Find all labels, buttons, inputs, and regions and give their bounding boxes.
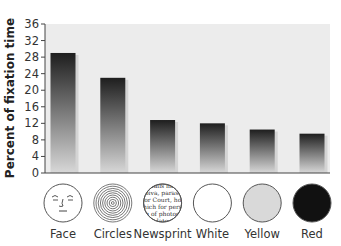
x-category-label: Circles (94, 227, 132, 241)
y-tick-label: 32 (24, 34, 39, 48)
y-tick-label: 16 (24, 100, 39, 114)
y-tick-label: 28 (24, 50, 39, 64)
y-tick-label: 8 (32, 133, 39, 147)
x-category-label: Red (301, 227, 323, 241)
newsprint-text-line: lato (157, 217, 169, 224)
bar-red (300, 134, 325, 173)
face-drawing-icon (44, 184, 82, 222)
y-tick-label: 0 (32, 166, 39, 180)
bar-newsprint (150, 120, 175, 173)
x-category-label: Face (50, 227, 76, 241)
bar-yellow (250, 130, 275, 173)
y-axis-label: Percent of fixation time (3, 18, 17, 178)
newsprint-circle-icon: ualis illeoiva, parasifor Court, holvhic… (139, 182, 186, 224)
plot-area (45, 24, 330, 173)
newsprint-text-line: ualis ille (150, 182, 176, 189)
bar-chart: 04812162024283236 Percent of fixation ti… (0, 0, 341, 246)
bar-face (51, 53, 76, 173)
yellow-disc-icon (243, 184, 281, 222)
bar-circles (100, 78, 125, 173)
bar-white (200, 123, 225, 173)
y-tick-label: 36 (24, 17, 39, 31)
x-category-label: White (196, 227, 229, 241)
y-tick-label: 12 (24, 116, 39, 130)
y-tick-label: 24 (24, 67, 39, 81)
red-disc-icon (293, 184, 331, 222)
y-tick-label: 4 (32, 149, 39, 163)
x-category-label: Newsprint (134, 227, 193, 241)
newsprint-text-line: for Court, hol (142, 196, 183, 203)
y-tick-label: 20 (24, 83, 39, 97)
white-disc-icon (193, 184, 231, 222)
concentric-circles-icon (94, 184, 132, 222)
x-category-label: Yellow (243, 227, 279, 241)
